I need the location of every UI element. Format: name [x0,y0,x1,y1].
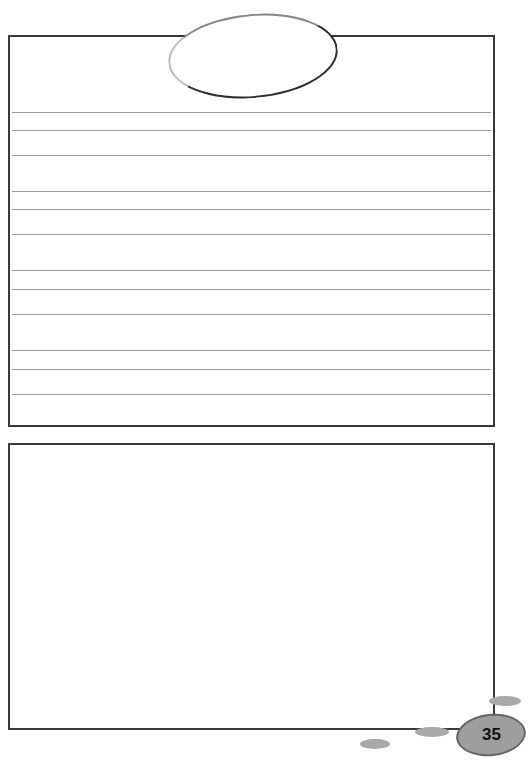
decorative-blob [489,696,521,706]
ruled-line [12,369,491,370]
drawing-box[interactable] [8,443,495,730]
decorative-blob [360,739,390,749]
ruled-line [12,314,491,315]
ruled-line [12,112,491,113]
ruled-line [12,394,491,395]
ruled-line [12,350,491,351]
page-number: 35 [482,725,501,745]
decorative-blob [415,727,449,737]
ruled-line [12,270,491,271]
ruled-line [12,191,491,192]
ruled-line [12,209,491,210]
ruled-line [12,289,491,290]
ruled-line [12,130,491,131]
ruled-line [12,234,491,235]
ruled-line [12,155,491,156]
